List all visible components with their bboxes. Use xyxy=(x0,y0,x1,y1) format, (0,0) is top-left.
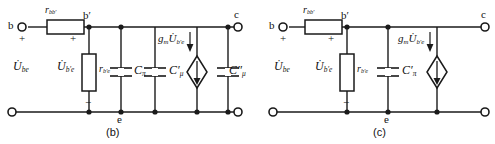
figure-root: b c b′ e + + − rbb′ U̇be U̇b′e rb′e Cπ C… xyxy=(0,0,495,144)
label-c-pi: Cπ xyxy=(134,64,146,77)
label-u-be-c: U̇be xyxy=(274,60,290,73)
vccs-label-arrow-c xyxy=(427,32,434,52)
label-r-b-prime-e-c: rb′e xyxy=(357,64,368,75)
node-label-e: e xyxy=(117,114,122,125)
label-c-pi-prime: C′π xyxy=(402,64,416,77)
polarity-plus-internal: + xyxy=(70,33,76,44)
circuit-panel-c: b c b′ e + + − rbb′ U̇be U̇b′e rb′e C′π … xyxy=(247,0,495,144)
circuit-b-svg xyxy=(0,0,248,144)
polarity-plus-input-c: + xyxy=(280,33,286,44)
circuit-panel-b: b c b′ e + + − rbb′ U̇be U̇b′e rb′e Cπ C… xyxy=(0,0,248,144)
terminal-b-c xyxy=(279,23,287,31)
label-u-b-prime-e: U̇b′e xyxy=(57,60,74,73)
terminal-label-b-c: b xyxy=(269,20,275,31)
terminal-c-c xyxy=(481,23,489,31)
label-c-mu-prime: C′μ xyxy=(169,64,183,77)
resistor-r-b-prime-e xyxy=(82,54,96,91)
resistor-r-bb-prime xyxy=(47,20,84,34)
resistor-r-b-prime-e-c xyxy=(340,54,354,91)
label-r-b-prime-e: rb′e xyxy=(99,64,110,75)
label-u-b-prime-e-c: U̇b′e xyxy=(315,60,332,73)
terminal-e-left xyxy=(8,108,16,116)
terminal-label-c: c xyxy=(234,9,239,20)
label-c-mu-double-prime: C″μ xyxy=(229,64,246,77)
label-vccs-c: gmU̇b′e xyxy=(398,33,424,45)
terminal-label-b: b xyxy=(8,20,14,31)
polarity-plus-internal-c: + xyxy=(328,33,334,44)
node-label-e-c: e xyxy=(384,114,389,125)
terminal-e-left-c xyxy=(269,108,277,116)
terminal-e-right-c xyxy=(481,108,489,116)
polarity-plus-input: + xyxy=(19,33,25,44)
label-r-bb-prime: rbb′ xyxy=(45,5,56,16)
node-label-b-prime-c: b′ xyxy=(341,10,349,21)
terminal-label-c-c: c xyxy=(481,9,486,20)
label-vccs-b: gmU̇b′e xyxy=(158,33,184,45)
polarity-minus-internal-c: − xyxy=(343,97,349,108)
terminal-c xyxy=(234,23,242,31)
panel-caption-b: (b) xyxy=(106,126,119,138)
vccs-label-arrow-b xyxy=(187,32,194,52)
panel-caption-c: (c) xyxy=(373,126,386,138)
polarity-minus-internal: − xyxy=(85,97,91,108)
terminal-b xyxy=(18,23,26,31)
terminal-e-right xyxy=(234,108,242,116)
resistor-r-bb-prime-c xyxy=(305,20,342,34)
label-u-be: U̇be xyxy=(13,60,29,73)
label-r-bb-prime-c: rbb′ xyxy=(303,5,314,16)
node-label-b-prime: b′ xyxy=(83,10,91,21)
